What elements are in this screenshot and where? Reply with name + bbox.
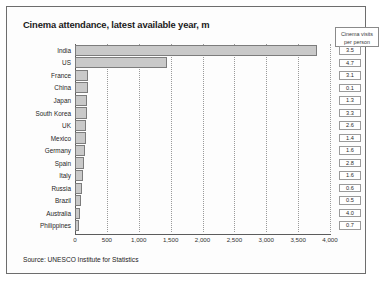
category-label: Spain xyxy=(9,160,71,167)
visits-value: 1.6 xyxy=(339,171,361,180)
category-label: Philippines xyxy=(9,222,71,229)
bar xyxy=(75,132,86,143)
visits-value: 3.3 xyxy=(339,109,361,118)
bar xyxy=(75,120,86,131)
gridline xyxy=(330,44,331,232)
bar-row xyxy=(75,120,330,131)
bar xyxy=(75,195,81,206)
bar-row xyxy=(75,170,330,181)
visits-value: 0.7 xyxy=(339,221,361,230)
bar xyxy=(75,208,80,219)
bar-row xyxy=(75,145,330,156)
bar-row xyxy=(75,107,330,118)
visits-value: 1.3 xyxy=(339,96,361,105)
bar-row xyxy=(75,95,330,106)
page-title: Cinema attendance, latest available year… xyxy=(23,19,209,30)
bar-row xyxy=(75,183,330,194)
visits-value: 2.8 xyxy=(339,159,361,168)
bar xyxy=(75,145,85,156)
visits-value: 4.7 xyxy=(339,59,361,68)
bar xyxy=(75,107,87,118)
plot-area xyxy=(75,44,330,232)
visits-value: 3.5 xyxy=(339,46,361,55)
category-label: Japan xyxy=(9,97,71,104)
visits-value: 3.1 xyxy=(339,71,361,80)
visits-value: 0.1 xyxy=(339,84,361,93)
category-label: France xyxy=(9,72,71,79)
bar-row xyxy=(75,132,330,143)
bar xyxy=(75,95,87,106)
bar xyxy=(75,82,88,93)
bar-row xyxy=(75,70,330,81)
x-tick-label: 4,000 xyxy=(310,236,350,243)
category-label: Italy xyxy=(9,172,71,179)
bar-row xyxy=(75,45,330,56)
bar-row xyxy=(75,208,330,219)
category-label: US xyxy=(9,59,71,66)
category-label: China xyxy=(9,84,71,91)
visits-value: 4.0 xyxy=(339,209,361,218)
category-label: Germany xyxy=(9,147,71,154)
bar-row xyxy=(75,220,330,231)
x-axis-line xyxy=(75,234,331,235)
visits-value: 1.6 xyxy=(339,146,361,155)
bar xyxy=(75,157,84,168)
bar xyxy=(75,45,317,56)
visits-value: 2.6 xyxy=(339,121,361,130)
bar xyxy=(75,220,79,231)
bar xyxy=(75,57,167,68)
category-label: India xyxy=(9,47,71,54)
bar-row xyxy=(75,57,330,68)
visits-column-header: Cinema visits per person xyxy=(335,27,379,47)
category-label: Brazil xyxy=(9,197,71,204)
category-label: South Korea xyxy=(9,110,71,117)
chart-frame: Cinema attendance, latest available year… xyxy=(6,6,366,274)
category-label: UK xyxy=(9,122,71,129)
visits-value: 0.6 xyxy=(339,184,361,193)
bar xyxy=(75,70,88,81)
bar xyxy=(75,170,83,181)
bar-row xyxy=(75,157,330,168)
visits-header-line-1: Cinema visits xyxy=(336,30,378,38)
visits-value: 1.4 xyxy=(339,134,361,143)
bar xyxy=(75,183,82,194)
category-label: Mexico xyxy=(9,135,71,142)
source-note: Source: UNESCO Institute for Statistics xyxy=(23,256,138,263)
visits-value: 0.5 xyxy=(339,196,361,205)
category-label: Russia xyxy=(9,185,71,192)
bar-row xyxy=(75,195,330,206)
bar-row xyxy=(75,82,330,93)
category-label: Australia xyxy=(9,210,71,217)
